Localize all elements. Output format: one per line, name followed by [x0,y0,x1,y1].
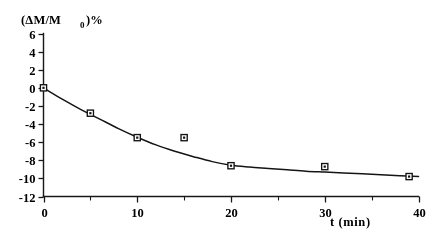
y-tick-label: -2 [25,100,35,114]
data-point [181,135,187,141]
data-point-center [42,87,44,89]
data-point [40,85,46,91]
chart-figure: (ΔM/M 0 )% 6420-2-4-6-8-10-12 010203040 … [0,0,446,241]
y-tick-label: 0 [29,82,35,96]
x-tick-label: 0 [41,206,47,220]
y-tick-label: -8 [25,154,35,168]
data-point [134,135,140,141]
y-axis-label-subscript: 0 [80,20,85,30]
y-tick-label: 2 [29,64,35,78]
data-point-center [408,175,410,177]
x-tick-label: 10 [131,206,144,220]
data-point-center [136,137,138,139]
y-axis-label: (ΔM/M [21,13,61,27]
y-tick-label: -6 [25,136,35,150]
data-point [322,164,328,170]
data-point-center [89,112,91,114]
y-tick-label: 4 [29,46,36,60]
x-axis-label: t (min) [330,215,371,229]
y-tick-label: -12 [19,191,36,205]
data-point-center [230,165,232,167]
chart-background [0,0,446,241]
y-tick-label: -10 [19,172,36,186]
data-point-center [324,166,326,168]
y-tick-label: -4 [25,118,36,132]
data-point-center [183,137,185,139]
data-point [406,173,412,179]
data-point [87,110,93,116]
mass-loss-decay-chart: (ΔM/M 0 )% 6420-2-4-6-8-10-12 010203040 … [0,0,446,241]
x-tick-label: 20 [225,206,238,220]
y-axis-label-suffix: )% [86,13,103,27]
y-tick-label: 6 [29,28,35,42]
x-tick-label: 40 [413,206,426,220]
data-point [228,163,234,169]
